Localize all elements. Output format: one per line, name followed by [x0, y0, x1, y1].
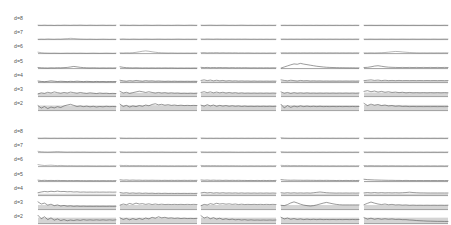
data-trace — [364, 91, 448, 93]
data-trace — [120, 192, 197, 193]
data-trace — [120, 51, 197, 53]
mini-plot-panel-2-d2 — [120, 212, 197, 225]
row-label: d=4 — [14, 72, 36, 79]
uncertainty-band — [120, 193, 197, 195]
uncertainty-band — [281, 218, 359, 224]
data-trace — [38, 53, 116, 54]
uncertainty-band — [364, 193, 448, 195]
uncertainty-band — [201, 205, 276, 210]
row-label: d=3 — [14, 86, 36, 93]
row-label: d=6 — [14, 156, 36, 163]
row-label: d=8 — [14, 15, 36, 22]
uncertainty-band — [38, 93, 116, 97]
uncertainty-band — [201, 193, 276, 195]
data-trace — [364, 80, 448, 81]
series-row-d2: d=2 — [0, 99, 451, 115]
row-label: d=8 — [14, 128, 36, 135]
data-trace — [38, 39, 116, 40]
uncertainty-band — [38, 205, 116, 210]
data-trace — [38, 66, 116, 68]
uncertainty-band — [120, 205, 197, 210]
row-label: d=6 — [14, 43, 36, 50]
data-trace — [281, 80, 359, 81]
mini-plot-panel-3-d2 — [201, 212, 276, 225]
data-trace — [38, 191, 116, 193]
uncertainty-band — [364, 93, 448, 97]
mini-plot-panel-1-d2 — [38, 99, 116, 115]
small-multiples-figure: d=8d=7d=6d=5d=4d=3d=2d=8d=7d=6d=5d=4d=3d… — [0, 0, 451, 225]
data-trace — [364, 65, 448, 67]
row-label: d=5 — [14, 171, 36, 178]
uncertainty-band — [201, 218, 276, 224]
mini-plot-panel-3-d2 — [201, 99, 276, 115]
mini-plot-panel-5-d2 — [364, 99, 448, 115]
data-trace — [364, 202, 448, 205]
data-trace — [201, 192, 276, 193]
data-trace — [201, 80, 276, 81]
data-trace — [364, 52, 448, 53]
uncertainty-band — [364, 205, 448, 210]
mini-plot-panel-4-d2 — [281, 212, 359, 225]
mini-plot-panel-5-d2 — [364, 212, 448, 225]
row-label: d=5 — [14, 58, 36, 65]
uncertainty-band — [364, 218, 448, 224]
row-label: d=7 — [14, 29, 36, 36]
uncertainty-band — [38, 194, 116, 196]
uncertainty-band — [364, 105, 448, 111]
uncertainty-band — [120, 105, 197, 110]
data-trace — [364, 179, 448, 180]
data-trace — [281, 63, 359, 68]
row-label: d=2 — [14, 100, 36, 107]
data-trace — [120, 66, 197, 67]
data-trace — [281, 192, 359, 193]
data-trace — [281, 92, 359, 93]
data-trace — [201, 180, 276, 181]
data-trace — [364, 192, 448, 193]
data-trace — [281, 179, 359, 180]
data-trace — [38, 165, 116, 166]
mini-plot-panel-1-d2 — [38, 212, 116, 225]
data-trace — [38, 180, 116, 181]
series-row-d2: d=2 — [0, 212, 451, 225]
data-trace — [38, 152, 116, 153]
row-label: d=2 — [14, 213, 36, 220]
uncertainty-band — [281, 193, 359, 195]
data-trace — [120, 203, 197, 205]
row-label: d=4 — [14, 185, 36, 192]
uncertainty-band — [201, 93, 276, 97]
row-label: d=3 — [14, 199, 36, 206]
uncertainty-band — [281, 93, 359, 97]
mini-plot-panel-4-d2 — [281, 99, 359, 115]
data-trace — [201, 67, 276, 68]
row-label: d=7 — [14, 142, 36, 149]
data-trace — [120, 179, 197, 180]
mini-plot-panel-2-d2 — [120, 99, 197, 115]
uncertainty-band — [281, 205, 359, 210]
